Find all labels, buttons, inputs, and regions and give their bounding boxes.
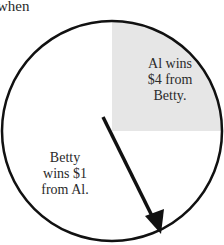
al-wins-label: Al wins $4 from Betty. <box>140 56 200 104</box>
betty-wins-line-1: Betty <box>32 150 98 166</box>
spinner-arrow-head-icon <box>145 209 164 234</box>
spinner-diagram <box>0 0 224 245</box>
spinner-arrow-shaft <box>103 117 155 222</box>
betty-wins-line-3: from Al. <box>32 182 98 198</box>
al-wins-line-1: Al wins <box>140 56 200 72</box>
betty-wins-line-2: wins $1 <box>32 166 98 182</box>
betty-wins-label: Betty wins $1 from Al. <box>32 150 98 198</box>
al-wins-line-2: $4 from <box>140 72 200 88</box>
al-wins-line-3: Betty. <box>140 88 200 104</box>
